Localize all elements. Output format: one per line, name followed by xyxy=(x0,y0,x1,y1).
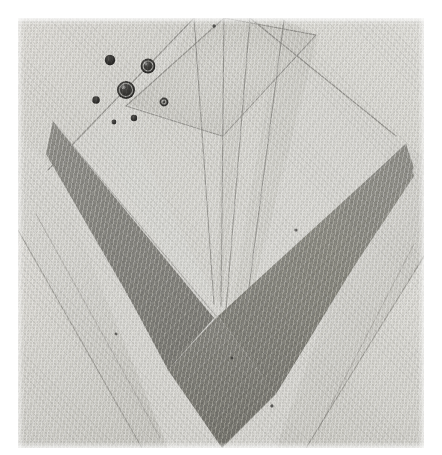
screenshot-root: Pieced textile block photograph halftone… xyxy=(0,0,442,455)
speck-mid-right xyxy=(294,228,297,231)
bead-center-icon xyxy=(117,81,135,99)
bead-upper-left-icon xyxy=(105,55,115,65)
speck-upper-center xyxy=(212,24,216,28)
bead-lower-left-icon xyxy=(112,120,117,125)
textile-block-illustration xyxy=(18,18,424,448)
bead-left-small-icon xyxy=(92,96,100,104)
bead-lower-icon xyxy=(131,115,137,121)
speck-low-center xyxy=(231,357,234,360)
bead-right-small-icon xyxy=(160,98,169,107)
speck-low-right xyxy=(270,404,273,407)
photograph-plate xyxy=(18,18,424,448)
speck-left-seam xyxy=(115,333,118,336)
bead-upper-right-icon xyxy=(141,59,156,74)
